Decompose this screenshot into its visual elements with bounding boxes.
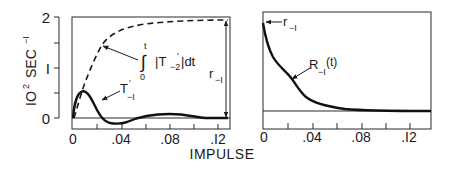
- svg-text:|dt: |dt: [181, 54, 196, 69]
- y-tick-0: 0: [42, 110, 50, 127]
- svg-text:∫: ∫: [139, 52, 147, 72]
- svg-text:2: 2: [21, 84, 31, 89]
- y-axis-title: IO 2 SEC −I: [21, 36, 39, 106]
- svg-text:−2: −2: [170, 62, 180, 72]
- right-x-tick-12: .I2: [401, 129, 417, 145]
- svg-text:(t): (t): [326, 55, 337, 69]
- left-x-tick-08: .08: [160, 131, 180, 147]
- t1-pointer-arrow: [102, 91, 120, 100]
- right-x-tick-08: .08: [351, 129, 371, 145]
- svg-text:R: R: [309, 57, 318, 72]
- r1-label-left: r −I: [209, 66, 223, 85]
- left-panel: 2 I 0 IO 2 SEC −I 0 .04 .08 .I2: [21, 9, 230, 147]
- svg-text:SEC: SEC: [23, 49, 39, 78]
- y-tick-1: I: [46, 60, 50, 77]
- svg-text:r: r: [209, 66, 214, 81]
- svg-text:−I: −I: [215, 75, 223, 85]
- r-curve: [263, 23, 431, 111]
- left-x-tick-0: 0: [69, 131, 77, 147]
- left-x-tick-04: .04: [111, 131, 131, 147]
- svg-text:−I: −I: [21, 36, 31, 44]
- svg-text:r: r: [283, 14, 288, 29]
- r-curve-pointer-arrow: [292, 68, 310, 79]
- svg-text:0: 0: [140, 72, 145, 82]
- r-curve-label: R −I (t): [309, 55, 337, 77]
- svg-text:′: ′: [129, 78, 131, 88]
- svg-text:|T: |T: [155, 54, 166, 69]
- integral-curve: [74, 20, 228, 118]
- t1-label: T ′ −I: [120, 78, 135, 102]
- integral-pointer-arrow: [103, 46, 138, 60]
- x-axis-title: IMPULSE: [190, 146, 255, 162]
- svg-text:t: t: [144, 41, 147, 51]
- right-panel: 0 .04 .08 .I2 r −I R −I (t): [260, 12, 431, 145]
- left-x-tick-12: .I2: [210, 131, 226, 147]
- right-x-tick-0: 0: [260, 129, 268, 145]
- svg-text:IO: IO: [23, 91, 39, 106]
- svg-text:−I: −I: [289, 23, 297, 33]
- integral-label: t ∫ 0 |T −2 ′ |dt: [139, 41, 196, 82]
- left-plot-frame: [72, 17, 230, 129]
- y-tick-2: 2: [42, 9, 50, 26]
- svg-text:−I: −I: [318, 67, 326, 77]
- figure: 2 I 0 IO 2 SEC −I 0 .04 .08 .I2: [0, 0, 449, 170]
- t1-curve: [73, 91, 228, 123]
- svg-text:′: ′: [177, 51, 179, 61]
- right-x-tick-04: .04: [302, 129, 322, 145]
- svg-text:−I: −I: [127, 92, 135, 102]
- r1-label-right: r −I: [283, 14, 297, 33]
